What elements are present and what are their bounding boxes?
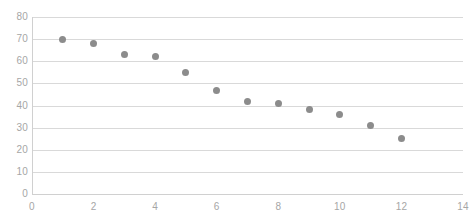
data-point [59, 36, 66, 43]
x-tick-label-12: 12 [396, 202, 408, 212]
plot-area [32, 17, 463, 194]
x-tick-label-6: 6 [214, 202, 220, 212]
y-tick-label-30: 30 [4, 123, 28, 133]
data-point [90, 40, 97, 47]
y-tick-label-50: 50 [4, 78, 28, 88]
y-tick-label-0: 0 [4, 189, 28, 199]
y-tick-label-70: 70 [4, 34, 28, 44]
data-point [121, 51, 128, 58]
gridline-y-80 [32, 17, 463, 18]
y-tick-label-40: 40 [4, 101, 28, 111]
gridline-y-40 [32, 106, 463, 107]
data-point [367, 122, 374, 129]
gridline-y-30 [32, 128, 463, 129]
data-point [306, 106, 313, 113]
data-point [336, 111, 343, 118]
y-tick-label-80: 80 [4, 12, 28, 22]
data-point [213, 87, 220, 94]
x-tick-label-0: 0 [29, 202, 35, 212]
data-point [152, 53, 159, 60]
gridline-y-20 [32, 150, 463, 151]
y-tick-label-20: 20 [4, 145, 28, 155]
x-tick-label-4: 4 [152, 202, 158, 212]
y-tick-label-60: 60 [4, 56, 28, 66]
x-axis-line [32, 194, 463, 195]
x-tick-label-14: 14 [457, 202, 469, 212]
gridline-y-10 [32, 172, 463, 173]
y-tick-label-10: 10 [4, 167, 28, 177]
y-axis-tick-labels: 01020304050607080 [0, 0, 28, 224]
x-tick-label-8: 8 [275, 202, 281, 212]
data-point [244, 98, 251, 105]
scatter-chart: 01020304050607080 02468101214 [0, 0, 473, 224]
x-tick-label-2: 2 [91, 202, 97, 212]
data-point [275, 100, 282, 107]
data-point [182, 69, 189, 76]
y-axis-line [32, 17, 33, 195]
gridline-y-60 [32, 61, 463, 62]
gridline-y-70 [32, 39, 463, 40]
gridline-y-50 [32, 83, 463, 84]
data-point [398, 135, 405, 142]
x-tick-label-10: 10 [334, 202, 346, 212]
